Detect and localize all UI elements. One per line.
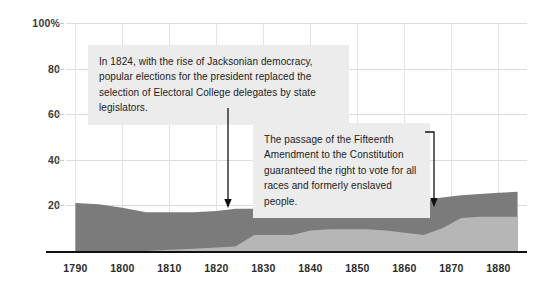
x-tick-label-1790: 1790: [63, 262, 87, 274]
y-axis: 100% 80 60 40 20: [0, 0, 60, 291]
x-tick-label-1880: 1880: [486, 262, 510, 274]
x-tick-label-1870: 1870: [439, 262, 463, 274]
y-tick-dash-100: [56, 23, 64, 24]
y-tick-label-80: 80: [8, 63, 60, 75]
x-tick-label-1810: 1810: [157, 262, 181, 274]
annotation-jacksonian-democracy: In 1824, with the rise of Jacksonian dem…: [88, 45, 349, 125]
annotation-fifteenth-amendment: The passage of the Fifteenth Amendment t…: [253, 123, 430, 218]
y-tick-label-20: 20: [8, 199, 60, 211]
x-tick-label-1850: 1850: [345, 262, 369, 274]
x-axis-line: [46, 251, 527, 253]
chart-container: 100% 80 60 40 20 1790 1800 1810 1820 183…: [0, 0, 533, 291]
x-tick-label-1830: 1830: [251, 262, 275, 274]
x-tick-label-1800: 1800: [110, 262, 134, 274]
y-tick-label-40: 40: [8, 154, 60, 166]
x-tick-label-1860: 1860: [392, 262, 416, 274]
x-tick-label-1820: 1820: [204, 262, 228, 274]
x-tick-label-1840: 1840: [298, 262, 322, 274]
y-tick-label-100: 100%: [8, 17, 60, 29]
y-tick-dash-20: [56, 205, 64, 206]
y-tick-dash-60: [56, 114, 64, 115]
y-tick-label-60: 60: [8, 108, 60, 120]
y-tick-dash-40: [56, 160, 64, 161]
y-tick-dash-80: [56, 69, 64, 70]
